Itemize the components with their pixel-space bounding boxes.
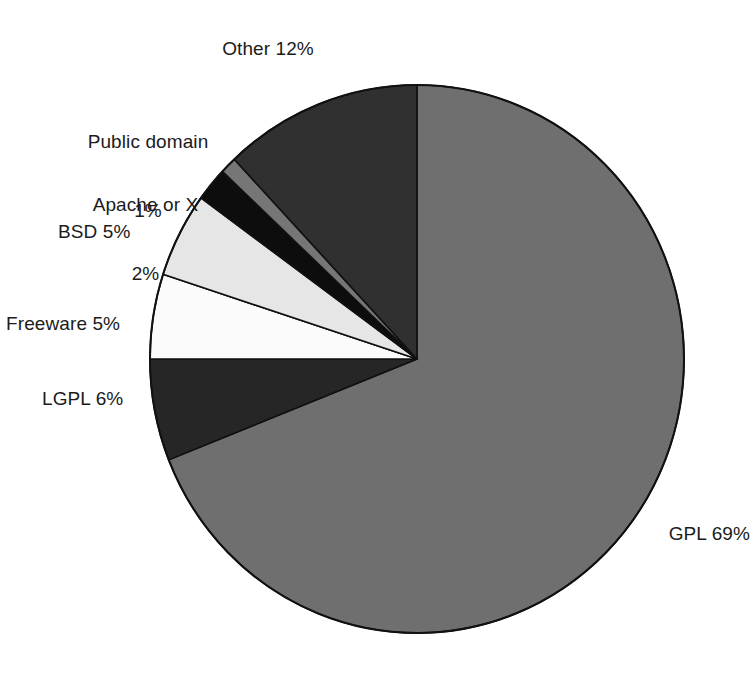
pie-chart: Other 12% Public domain 1% Apache or X 2… (0, 0, 754, 675)
pie-label-lgpl: LGPL 6% (42, 387, 152, 410)
pie-label-apache-or-x-value: 2% (55, 262, 236, 285)
pie-label-other: Other 12% (203, 37, 333, 60)
pie-label-freeware: Freeware 5% (6, 312, 148, 335)
pie-label-bsd: BSD 5% (58, 220, 172, 243)
pie-label-gpl: GPL 69% (626, 522, 750, 545)
pie-label-apache-or-x-name: Apache or X (55, 193, 236, 216)
